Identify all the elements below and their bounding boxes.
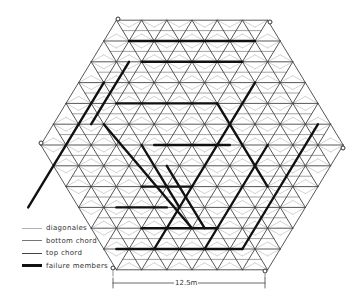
dimension-label: 12.5m	[174, 279, 198, 287]
top-chord-member	[280, 228, 293, 249]
legend-label: bottom chord	[46, 237, 97, 245]
top-chord-member	[104, 20, 117, 41]
top-chord-member	[79, 62, 92, 83]
support-node-icon	[268, 20, 272, 24]
diagonals-line-icon	[22, 228, 42, 229]
top-chord-member	[53, 166, 66, 187]
top-chord-member	[293, 62, 306, 83]
top-chord-member	[305, 83, 318, 104]
support-node-icon	[263, 269, 267, 273]
top-chord-member	[91, 41, 104, 62]
legend-item-failure-members: failure members	[22, 260, 108, 273]
top-chord-member	[268, 249, 281, 270]
top-chord-line-icon	[22, 253, 42, 254]
bottom-chord-line-icon	[22, 240, 42, 241]
legend-label: diagonales	[46, 224, 87, 232]
support-node-icon	[39, 141, 43, 145]
top-chord-member	[66, 83, 79, 104]
top-chord-member	[66, 187, 79, 208]
top-chord-member	[53, 103, 66, 124]
top-chord-member	[318, 166, 331, 187]
legend-label: top chord	[46, 249, 82, 257]
support-node-icon	[116, 17, 120, 21]
support-node-icon	[111, 266, 115, 270]
top-chord-member	[293, 207, 306, 228]
legend-item-bottom-chord: bottom chord	[22, 235, 108, 248]
top-chord-member	[331, 124, 344, 145]
top-chord-member	[280, 41, 293, 62]
failure-members-line-icon	[22, 264, 42, 267]
top-chord-member	[41, 145, 54, 166]
legend-label: failure members	[46, 262, 108, 270]
legend-item-diagonals: diagonales	[22, 222, 108, 235]
top-chord-member	[305, 187, 318, 208]
top-chord-member	[318, 103, 331, 124]
support-node-icon	[341, 146, 345, 150]
legend: diagonales bottom chord top chord failur…	[22, 222, 108, 272]
legend-item-top-chord: top chord	[22, 247, 108, 260]
